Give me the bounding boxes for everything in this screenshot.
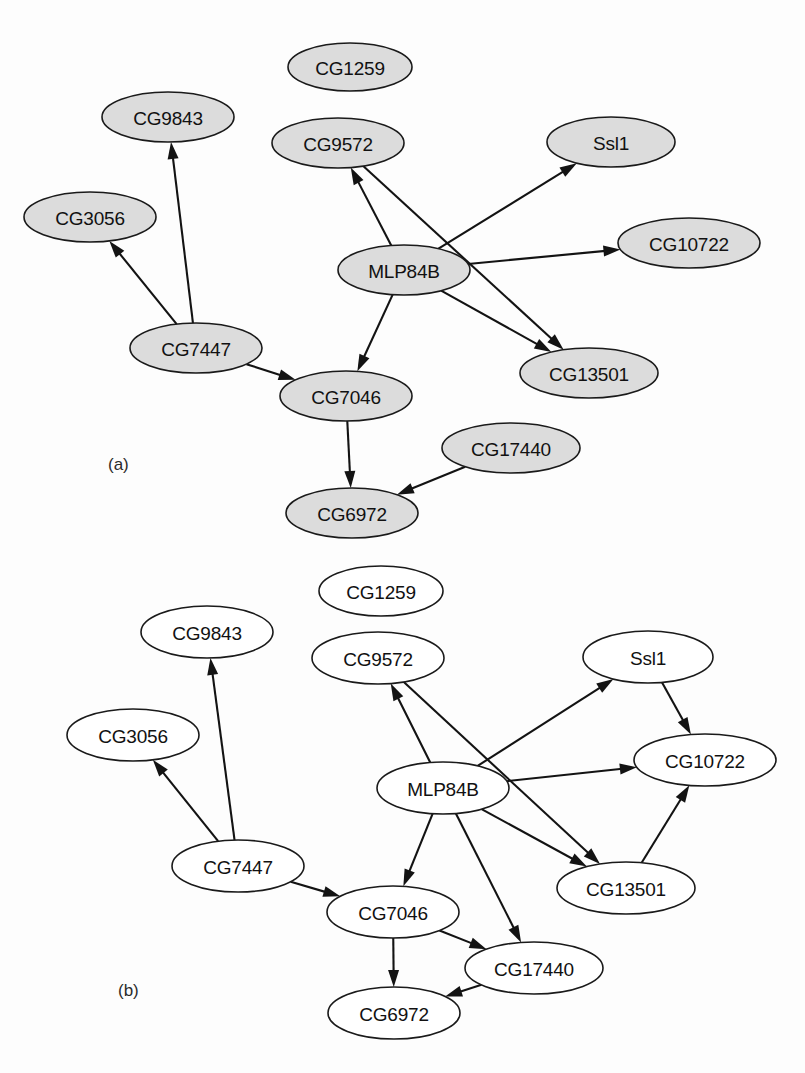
panel-b-nodes: CG1259CG9843CG9572Ssl1CG3056CG10722MLP84… (67, 566, 776, 1039)
node-label-CG1259: CG1259 (346, 582, 416, 603)
node-CG7046[interactable]: CG7046 (327, 886, 459, 938)
node-CG6972[interactable]: CG6972 (328, 987, 460, 1039)
arrowhead-icon (509, 925, 522, 943)
arrowhead-icon (391, 684, 404, 702)
node-Ssl1[interactable]: Ssl1 (547, 117, 675, 167)
arrowhead-icon (619, 764, 636, 775)
arrowhead-icon (278, 369, 296, 379)
node-label-CG9843: CG9843 (172, 623, 242, 644)
node-MLP84B[interactable]: MLP84B (338, 245, 470, 295)
node-CG10722[interactable]: CG10722 (618, 218, 760, 268)
edge-CG7046-to-CG6972 (347, 421, 350, 476)
arrowhead-icon (322, 886, 340, 897)
node-label-CG17440: CG17440 (494, 959, 574, 980)
gene-network-figure: CG1259CG9843CG9572Ssl1CG3056CG10722MLP84… (0, 0, 805, 1073)
node-CG7447[interactable]: CG7447 (172, 840, 304, 892)
node-CG1259[interactable]: CG1259 (288, 43, 412, 91)
edge-CG7447-to-CG9843 (173, 154, 193, 323)
node-CG6972[interactable]: CG6972 (286, 488, 418, 538)
node-label-MLP84B: MLP84B (368, 261, 440, 282)
node-CG9572[interactable]: CG9572 (312, 632, 444, 684)
panel-b-edges (153, 658, 691, 997)
node-label-CG6972: CG6972 (359, 1004, 429, 1025)
edge-MLP84B-to-CG9572 (396, 694, 430, 762)
panel-a: CG1259CG9843CG9572Ssl1CG3056CG10722MLP84… (24, 43, 760, 538)
node-label-CG10722: CG10722 (649, 234, 729, 255)
node-label-CG7046: CG7046 (358, 903, 428, 924)
edge-CG7046-to-CG17440 (439, 930, 475, 944)
node-label-Ssl1: Ssl1 (593, 133, 629, 154)
arrowhead-icon (676, 785, 690, 802)
node-CG9843[interactable]: CG9843 (102, 92, 234, 142)
node-label-CG9572: CG9572 (303, 134, 373, 155)
edge-MLP84B-to-CG9572 (356, 178, 391, 245)
edge-MLP84B-to-CG13501 (441, 291, 541, 346)
node-label-CG7046: CG7046 (311, 387, 381, 408)
edge-CG7447-to-CG9843 (212, 670, 235, 840)
arrowhead-icon (403, 869, 414, 887)
edge-CG7447-to-CG3056 (117, 250, 177, 324)
arrowhead-icon (357, 354, 369, 372)
edge-CG7447-to-CG7046 (246, 364, 284, 376)
node-CG7447[interactable]: CG7447 (130, 323, 262, 373)
panels-root: CG1259CG9843CG9572Ssl1CG3056CG10722MLP84… (24, 43, 776, 1039)
node-CG10722[interactable]: CG10722 (634, 734, 776, 786)
arrowhead-icon (603, 246, 620, 257)
arrowhead-icon (397, 483, 415, 495)
panel-a-caption: (a) (108, 455, 129, 474)
arrowhead-icon (469, 938, 487, 949)
node-label-CG3056: CG3056 (55, 208, 125, 229)
node-CG17440[interactable]: CG17440 (442, 423, 580, 473)
panel-b-caption: (b) (118, 981, 139, 1000)
panel-a-nodes: CG1259CG9843CG9572Ssl1CG3056CG10722MLP84… (24, 43, 760, 538)
arrowhead-icon (445, 986, 463, 996)
node-CG3056[interactable]: CG3056 (24, 192, 156, 242)
edge-CG7447-to-CG7046 (291, 882, 329, 893)
arrowhead-icon (596, 679, 613, 693)
node-MLP84B[interactable]: MLP84B (377, 762, 509, 814)
node-label-CG13501: CG13501 (549, 364, 629, 385)
node-CG3056[interactable]: CG3056 (67, 709, 199, 761)
edge-CG17440-to-CG6972 (408, 467, 465, 490)
edge-MLP84B-to-CG10722 (507, 769, 625, 782)
arrowhead-icon (207, 658, 218, 676)
node-label-CG10722: CG10722 (665, 751, 745, 772)
node-label-CG9843: CG9843 (133, 108, 203, 129)
edge-MLP84B-to-CG17440 (456, 814, 516, 932)
node-CG13501[interactable]: CG13501 (557, 862, 695, 914)
node-label-CG1259: CG1259 (315, 58, 385, 79)
node-label-CG13501: CG13501 (586, 879, 666, 900)
node-label-MLP84B: MLP84B (407, 779, 479, 800)
node-label-Ssl1: Ssl1 (630, 648, 666, 669)
node-CG9843[interactable]: CG9843 (141, 606, 273, 658)
arrowhead-icon (344, 471, 355, 488)
panel-b: CG1259CG9843CG9572Ssl1CG3056CG10722MLP84… (67, 566, 776, 1039)
edge-CG7447-to-CG3056 (161, 769, 219, 841)
node-CG9572[interactable]: CG9572 (272, 118, 404, 168)
edge-Ssl1-to-CG10722 (662, 682, 685, 723)
node-label-CG7447: CG7447 (203, 857, 273, 878)
node-CG13501[interactable]: CG13501 (520, 348, 658, 398)
node-Ssl1[interactable]: Ssl1 (583, 631, 713, 683)
edge-MLP84B-to-CG10722 (468, 251, 608, 264)
graph-canvas: CG1259CG9843CG9572Ssl1CG3056CG10722MLP84… (0, 0, 805, 1073)
node-label-CG9572: CG9572 (343, 649, 413, 670)
arrowhead-icon (559, 163, 576, 177)
arrowhead-icon (569, 854, 587, 867)
arrowhead-icon (678, 717, 691, 735)
node-label-CG3056: CG3056 (98, 726, 168, 747)
node-CG1259[interactable]: CG1259 (319, 566, 443, 616)
node-label-CG6972: CG6972 (317, 504, 387, 525)
arrowhead-icon (168, 142, 179, 160)
arrowhead-icon (351, 168, 364, 186)
edge-MLP84B-to-CG13501 (482, 809, 576, 861)
arrowhead-icon (388, 970, 399, 987)
node-label-CG17440: CG17440 (471, 439, 551, 460)
edge-MLP84B-to-CG7046 (362, 295, 392, 361)
edge-MLP84B-to-Ssl1 (438, 170, 566, 249)
node-CG7046[interactable]: CG7046 (280, 371, 412, 421)
edge-CG13501-to-CG10722 (642, 796, 683, 863)
node-label-CG7447: CG7447 (161, 339, 231, 360)
node-CG17440[interactable]: CG17440 (465, 942, 603, 994)
edge-MLP84B-to-CG7046 (408, 814, 433, 875)
